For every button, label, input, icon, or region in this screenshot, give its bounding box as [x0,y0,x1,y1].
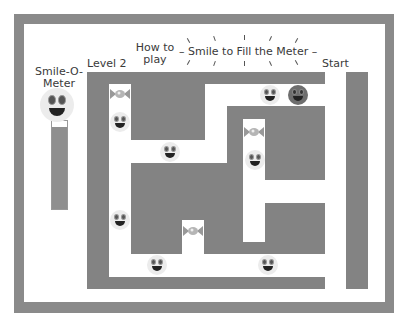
candy-icon[interactable] [110,88,130,100]
smiley-icon[interactable] [110,210,130,230]
meter-smiley-icon [40,88,74,122]
how-to-play-button[interactable]: How to play [134,42,176,66]
title-dash-left: – [179,45,185,58]
level-label: Level 2 [87,58,127,70]
path-right-horizontal [265,180,325,203]
game-title: – Smile to Fill the Meter – [179,46,317,58]
title-dash-right: – [312,45,318,58]
smiley-icon[interactable] [245,150,265,170]
path-bottom-right [325,254,346,277]
path-bottom-horizontal [109,254,325,277]
title-text: Smile to Fill the Meter [188,45,308,58]
smiley-icon[interactable] [160,142,180,162]
maze-wall-right [346,72,368,289]
maze-wall-bottom [87,277,325,289]
meter-label: Smile-O- Meter [34,66,84,90]
smiley-icon[interactable] [260,85,280,105]
smile-o-meter-bar [51,120,68,210]
meter-fill [52,127,67,209]
path-bottom-gap [87,289,368,302]
smiley-icon[interactable] [110,112,130,132]
start-button[interactable]: Start [322,58,349,70]
how-to-play-line2: play [134,54,176,66]
smiley-icon[interactable] [147,255,167,275]
player-smiley-icon[interactable] [288,85,308,105]
smiley-icon[interactable] [258,255,278,275]
candy-icon[interactable] [244,126,264,138]
candy-icon[interactable] [183,225,203,237]
